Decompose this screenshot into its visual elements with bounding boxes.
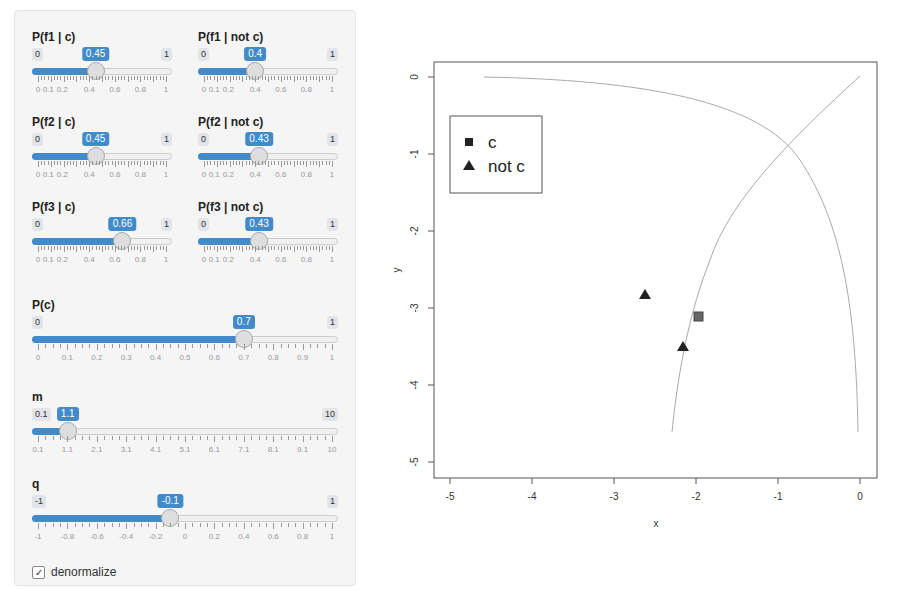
y-axis: 0-1-2-3-4-5 — [409, 74, 434, 467]
point-not-c-1 — [639, 289, 651, 299]
x-tick-label: -2 — [692, 491, 701, 502]
y-axis-label: y — [391, 268, 402, 273]
y-tick-label: -3 — [409, 303, 420, 312]
x-tick-label: -1 — [774, 491, 783, 502]
y-tick-label: -4 — [409, 380, 420, 389]
y-tick-label: -1 — [409, 149, 420, 158]
point-not-c-2 — [677, 341, 689, 351]
legend: c not c — [450, 116, 542, 193]
x-axis-label: x — [654, 518, 659, 529]
x-axis: -5-4-3-2-10 — [446, 478, 864, 502]
x-tick-label: -5 — [446, 491, 455, 502]
y-tick-label: -5 — [409, 457, 420, 466]
x-tick-label: -3 — [610, 491, 619, 502]
y-tick-label: -2 — [409, 226, 420, 235]
legend-label-not-c: not c — [488, 157, 525, 176]
x-tick-label: -4 — [528, 491, 537, 502]
legend-label-c: c — [488, 133, 497, 152]
x-tick-label: 0 — [857, 491, 863, 502]
legend-square-icon — [465, 138, 473, 146]
decision-curve-2 — [672, 76, 860, 432]
y-tick-label: 0 — [409, 74, 420, 80]
plot: -5-4-3-2-10 0-1-2-3-4-5 x y c not c — [0, 0, 897, 596]
point-c — [694, 312, 703, 321]
